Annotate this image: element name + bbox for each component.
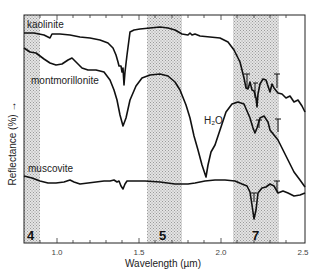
x-tick-label: 2.0 [215, 248, 227, 257]
label-montmorillonite: montmorillonite [31, 75, 99, 86]
band-7-label: 7 [252, 228, 259, 243]
band-4-label: 4 [27, 228, 35, 243]
x-tick-label: 1.5 [133, 248, 145, 257]
x-axis-label: Wavelength (µm) [125, 258, 201, 269]
label-muscovite: muscovite [28, 163, 73, 174]
x-tick-label: 2.5 [297, 248, 309, 257]
x-tick-label: 1.0 [51, 248, 63, 257]
label-h2o: H₂O [204, 115, 223, 126]
spectral-reflectance-chart: kaolinite montmorillonite muscovite H₂O … [0, 0, 322, 270]
band-5-label: 5 [159, 228, 166, 243]
band-5-shading [147, 15, 182, 243]
label-kaolinite: kaolinite [27, 19, 64, 30]
y-axis-label: Reflectance (%) → [7, 84, 18, 204]
